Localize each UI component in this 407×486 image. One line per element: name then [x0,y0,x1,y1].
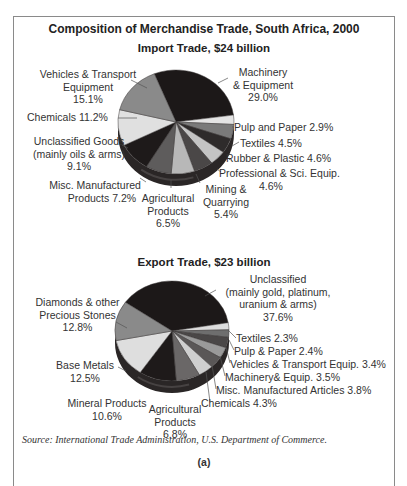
export-label-base-metals: Base Metals12.5% [50,359,120,384]
export-label-mineral: Mineral Products10.6% [62,397,152,422]
export-label-machinery: Machinery& Equip. 3.5% [225,371,340,384]
leader-line [228,330,236,338]
export-label-unclassified: Unclassified(mainly gold, platinum,urani… [223,273,333,323]
import-label-unclassified: Unclassified Goods(mainly oils & arms)9.… [20,135,138,173]
import-label-vehicles: Vehicles & TransportEquipment15.1% [28,68,148,106]
pie [115,281,229,393]
import-label-textiles: Textiles 4.5% [240,137,302,150]
import-label-chemicals: Chemicals 11.2% [27,111,108,124]
export-label-diamonds: Diamonds & otherPrecious Stones12.8% [30,296,125,334]
figure-caption: (a) [13,456,395,468]
import-label-pulp: Pulp and Paper 2.9% [234,121,333,134]
export-label-pulp: Pulp & Paper 2.4% [234,345,323,358]
export-label-chemicals: Chemicals 4.3% [201,397,277,410]
import-label-agricultural: AgriculturalProducts6.5% [132,192,204,230]
import-label-professional: Professional & Sci. Equip.4.6% [219,167,340,192]
import-label-machinery: Machinery& Equipment29.0% [228,66,298,104]
leader-line [218,78,228,83]
export-label-vehicles: Vehicles & Transport Equip. 3.4% [230,358,386,371]
source-note: Source: International Trade Administrati… [22,434,327,445]
import-label-misc: Misc. ManufacturedProducts 7.2% [45,179,145,204]
export-label-textiles: Textiles 2.3% [236,332,298,345]
export-label-misc: Misc. Manufactured Articles 3.8% [216,384,371,397]
import-label-rubber: Rubber & Plastic 4.6% [226,152,331,165]
